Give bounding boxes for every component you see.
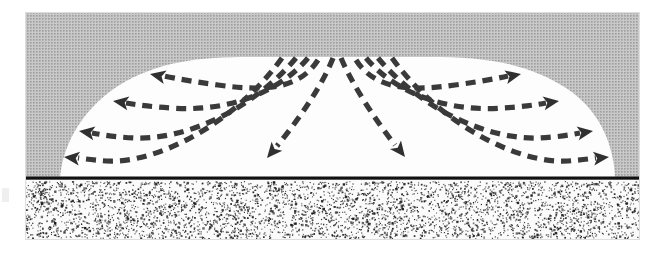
saturated-groundwater-mound-region [60,57,615,178]
sand-aquifer-region [25,180,640,240]
figure-root [0,0,660,253]
page-margin-mark [2,188,9,202]
water-table-line [25,177,640,180]
groundwater-mound-diagram [0,0,660,253]
